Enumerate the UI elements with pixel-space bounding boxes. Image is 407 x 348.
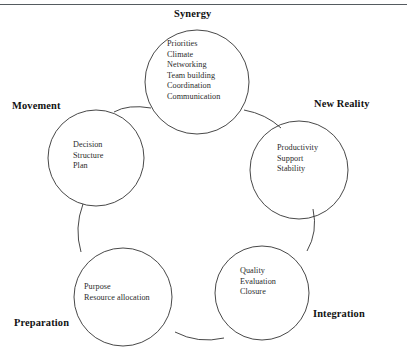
connector-new-reality-integration xyxy=(307,209,315,251)
circle-item-synergy-2: Networking xyxy=(167,60,207,71)
connector-integration-preparation xyxy=(175,332,224,340)
connector-synergy-new-reality xyxy=(244,110,281,128)
circle-item-new-reality-1: Support xyxy=(277,154,303,165)
cycle-diagram-canvas xyxy=(0,0,407,348)
circle-item-movement-0: Decision xyxy=(73,140,103,151)
node-label-synergy: Synergy xyxy=(174,8,211,19)
node-label-movement: Movement xyxy=(12,100,61,111)
circle-item-synergy-5: Communication xyxy=(167,92,220,103)
circle-item-preparation-0: Purpose xyxy=(84,282,111,293)
connector-movement-synergy xyxy=(114,107,151,112)
circle-item-synergy-3: Team building xyxy=(167,71,215,82)
circle-item-preparation-1: Resource allocation xyxy=(84,293,150,304)
node-label-integration: Integration xyxy=(313,308,365,319)
circle-item-new-reality-2: Stability xyxy=(277,164,305,175)
connector-preparation-movement xyxy=(78,204,83,252)
circle-item-synergy-4: Coordination xyxy=(167,81,211,92)
circle-item-new-reality-0: Productivity xyxy=(277,143,318,154)
circle-item-synergy-1: Climate xyxy=(167,50,193,61)
circle-item-integration-0: Quality xyxy=(240,266,265,277)
circle-item-integration-1: Evaluation xyxy=(240,277,276,288)
circle-item-synergy-0: Priorities xyxy=(167,39,198,50)
diagram-page: Synergy New Reality Integration Preparat… xyxy=(0,0,407,348)
node-label-preparation: Preparation xyxy=(14,317,69,328)
circle-item-movement-1: Structure xyxy=(73,151,103,162)
circle-item-integration-2: Closure xyxy=(240,287,266,298)
node-label-new-reality: New Reality xyxy=(314,98,370,109)
circle-item-movement-2: Plan xyxy=(73,161,88,172)
